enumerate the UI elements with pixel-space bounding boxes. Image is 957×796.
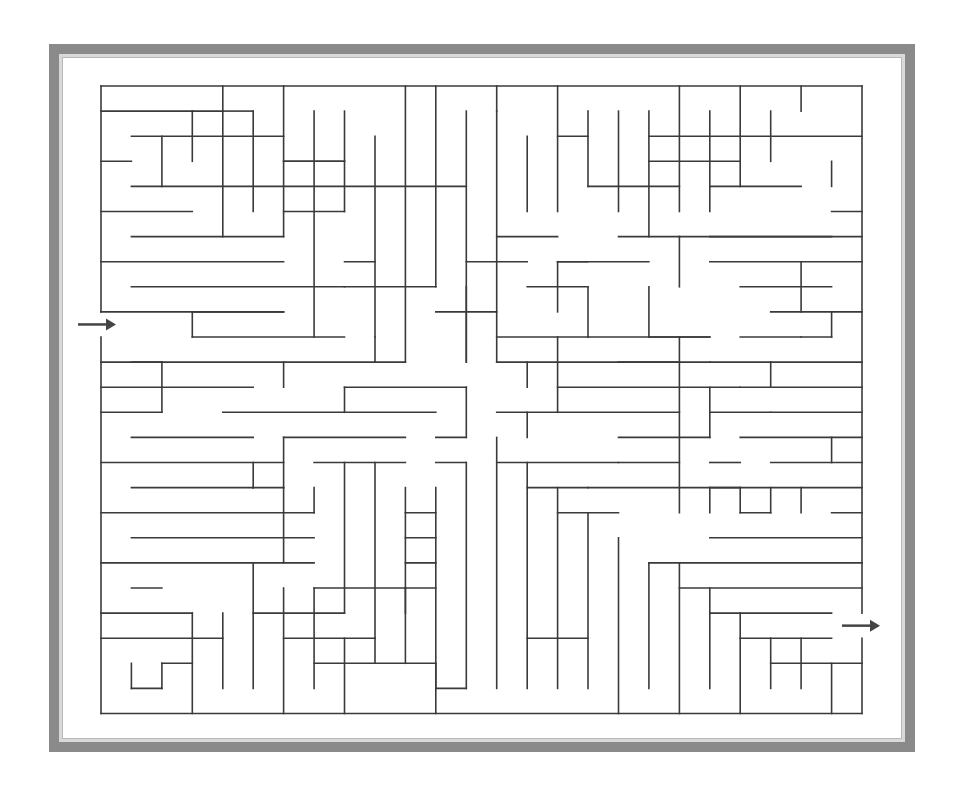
- start-arrow-icon: [78, 318, 116, 330]
- maze-svg[interactable]: [0, 0, 957, 796]
- end-arrow-icon: [842, 620, 880, 632]
- maze-walls: [101, 86, 862, 714]
